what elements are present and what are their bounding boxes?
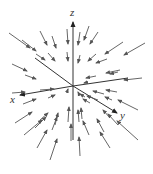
field-arrow-icon	[52, 36, 56, 48]
field-arrow-icon	[50, 139, 57, 160]
axes	[20, 22, 128, 140]
field-arrow-icon	[78, 32, 80, 45]
field-arrow-icon	[40, 31, 47, 45]
x-axis	[20, 86, 73, 95]
field-arrow-icon	[105, 42, 123, 54]
field-arrow-icon	[80, 94, 85, 97]
z-axis-label: z	[69, 6, 75, 18]
field-arrow-icon	[100, 132, 110, 148]
field-arrow-icon	[67, 52, 68, 61]
field-arrow-icon	[87, 96, 98, 100]
field-arrow-icon	[79, 137, 80, 156]
field-arrow-icon	[15, 112, 32, 123]
field-arrow-icon	[83, 121, 89, 135]
field-arrow-icon	[24, 120, 42, 135]
field-arrow-icon	[93, 91, 104, 94]
field-arrow-icon	[106, 70, 120, 73]
field-arrow-icon	[25, 75, 36, 79]
field-arrow-icon	[12, 64, 27, 71]
vector-field-diagram: zxy	[0, 0, 153, 174]
field-arrow-icon	[84, 82, 88, 83]
field-arrow-icon	[55, 113, 58, 125]
field-arrow-icon	[117, 121, 138, 140]
field-arrow-icon	[83, 99, 90, 103]
field-arrow-icon	[97, 119, 104, 132]
field-arrow-icon	[78, 55, 80, 63]
field-arrow-icon	[67, 29, 68, 44]
y-axis-label: y	[119, 109, 125, 121]
x-axis-label: x	[9, 93, 15, 105]
field-arrow-icon	[84, 26, 89, 40]
axis-labels: zxy	[9, 6, 125, 121]
field-arrow-icon	[67, 89, 68, 92]
field-arrow-icon	[78, 92, 79, 94]
field-arrow-icon	[90, 32, 98, 44]
field-arrow-icon	[96, 59, 107, 63]
field-arrow-icon	[81, 108, 82, 119]
field-arrow-icon	[88, 54, 96, 61]
x-neg-axis	[73, 78, 128, 86]
field-arrow-icon	[36, 54, 45, 60]
field-arrow-icon	[35, 117, 46, 128]
y-neg-axis	[35, 58, 73, 86]
field-arrow-icon	[108, 114, 118, 125]
field-arrow-icon	[48, 95, 55, 98]
field-arrow-icon	[103, 110, 110, 118]
field-arrow-icon	[106, 90, 117, 92]
field-arrow-icon	[86, 76, 96, 78]
field-arrow-icon	[78, 110, 79, 122]
field-arrow-icon	[37, 130, 47, 148]
field-arrow-icon	[48, 53, 55, 61]
field-arrow-icon	[124, 43, 145, 55]
vector-field-canvas: zxy	[0, 0, 153, 174]
field-arrow-icon	[22, 40, 36, 51]
field-arrow-icon	[23, 99, 36, 104]
field-arrow-icon	[68, 107, 69, 122]
field-arrow-icon	[105, 97, 112, 100]
field-arrow-icon	[9, 33, 30, 48]
